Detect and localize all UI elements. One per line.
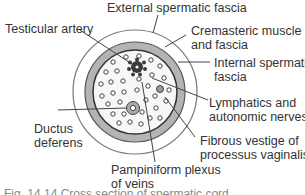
label-fibrous-2: processus vaginalis [200, 148, 305, 163]
label-ductus-2: deferens [34, 136, 83, 151]
ductus-deferens-icon [127, 102, 140, 115]
label-lymph-2: autonomic nerves [209, 110, 305, 125]
label-internal-1: Internal spermatic [214, 56, 305, 71]
lymphatic-vessel-icon [157, 86, 164, 93]
label-testicular-artery: Testicular artery [5, 22, 93, 37]
label-external-spermatic-fascia: External spermatic fascia [107, 1, 247, 16]
label-cremasteric-1: Cremasteric muscle [191, 24, 301, 39]
label-lymph-1: Lymphatics and [209, 96, 296, 111]
label-ductus-1: Ductus [34, 122, 73, 137]
label-internal-2: fascia [214, 70, 247, 85]
label-cremasteric-2: and fascia [191, 38, 248, 53]
label-fibrous-1: Fibrous vestige of [200, 134, 299, 149]
label-pampiniform-1: Pampiniform plexus [111, 163, 221, 178]
figure-caption: Fig. 14.14 Cross section of spermatic co… [4, 187, 229, 195]
